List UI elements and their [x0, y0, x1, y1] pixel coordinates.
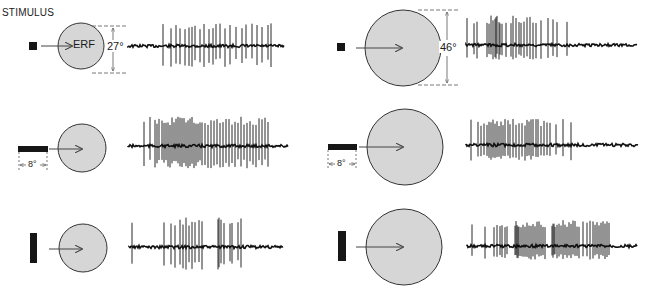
spike-trace	[466, 119, 638, 161]
large-erf-diameter-label: 46°	[439, 41, 458, 53]
panel-large-hbar	[328, 109, 638, 185]
figure-canvas	[0, 0, 649, 297]
spike-trace	[129, 218, 283, 270]
bar-length-label-left: 8°	[28, 159, 37, 169]
spike-trace	[466, 16, 637, 60]
erf-label: ERF	[73, 38, 95, 50]
panel-small-square	[29, 23, 284, 73]
erf-circle	[59, 224, 107, 272]
stimulus-small-square	[337, 43, 345, 51]
stimulus-vertical-bar	[338, 231, 346, 261]
panel-large-square	[337, 10, 637, 86]
bar-length-label-right: 8°	[337, 158, 346, 168]
small-erf-diameter-label: 27°	[106, 40, 125, 52]
spike-trace	[128, 117, 288, 168]
erf-circle	[58, 124, 106, 172]
stimulus-horizontal-bar	[18, 146, 48, 152]
stimulus-vertical-bar	[30, 233, 37, 263]
panel-large-vbar	[338, 209, 637, 285]
stimulus-heading: STIMULUS	[2, 7, 54, 18]
panel-small-hbar	[18, 117, 288, 172]
receptive-field-figure: STIMULUS ERF 27° 46° 8° 8°	[0, 0, 649, 297]
stimulus-horizontal-bar	[328, 144, 357, 150]
panel-small-vbar	[30, 218, 283, 272]
stimulus-small-square	[29, 42, 37, 50]
spike-trace	[128, 23, 284, 67]
spike-trace	[467, 220, 637, 259]
